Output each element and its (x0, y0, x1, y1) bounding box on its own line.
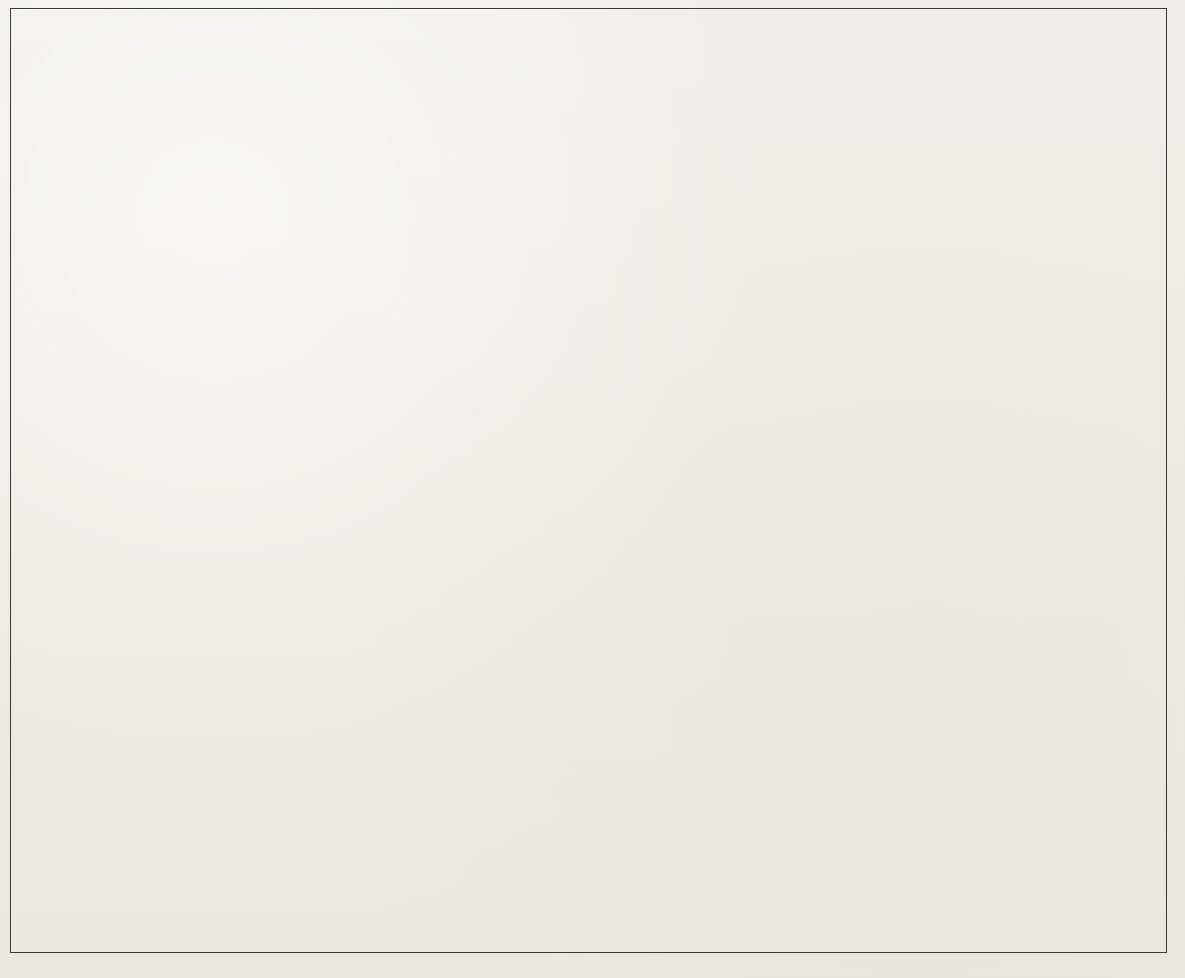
chart-area (0, 0, 1185, 978)
area-chart-svg (0, 0, 1185, 978)
